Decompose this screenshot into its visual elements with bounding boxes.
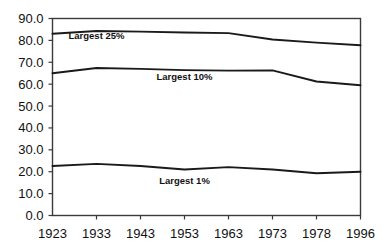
series-annotation-label: Largest 1%: [159, 175, 210, 186]
y-axis-tick-label: 50.0: [18, 99, 43, 114]
y-axis-tick-label: 90.0: [18, 11, 43, 26]
series-annotation-label: Largest 10%: [157, 71, 214, 82]
x-axis-tick-label: 1973: [258, 226, 287, 241]
x-axis-tick-label: 1953: [170, 226, 199, 241]
y-axis-tick-label: 0.0: [25, 208, 43, 223]
y-axis-tick-label: 70.0: [18, 55, 43, 70]
x-axis-tick-label: 1933: [82, 226, 111, 241]
y-axis-tick-label: 80.0: [18, 33, 43, 48]
x-axis-tick-label: 1963: [214, 226, 243, 241]
line-chart: 0.010.020.030.040.050.060.070.080.090.0 …: [0, 0, 390, 251]
chart-background: [0, 0, 390, 251]
series-annotation-label: Largest 25%: [69, 30, 126, 41]
y-axis-tick-label: 10.0: [18, 186, 43, 201]
x-axis-tick-label: 1943: [126, 226, 155, 241]
y-axis-tick-label: 20.0: [18, 164, 43, 179]
y-axis-tick-label: 60.0: [18, 77, 43, 92]
y-axis-tick-label: 30.0: [18, 142, 43, 157]
chart-container: 0.010.020.030.040.050.060.070.080.090.0 …: [0, 0, 390, 251]
x-axis-tick-label: 1996: [346, 226, 375, 241]
y-axis-tick-label: 40.0: [18, 120, 43, 135]
x-axis-tick-label: 1923: [38, 226, 67, 241]
x-axis-tick-label: 1978: [302, 226, 331, 241]
